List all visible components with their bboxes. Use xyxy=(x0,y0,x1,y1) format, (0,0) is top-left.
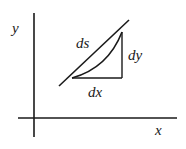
dy-label: dy xyxy=(128,47,143,63)
x-axis-label: x xyxy=(154,122,162,138)
y-axis-label: y xyxy=(10,20,19,36)
ds-label: ds xyxy=(76,35,90,51)
dx-label: dx xyxy=(88,84,103,100)
hypotenuse-line xyxy=(59,20,129,86)
arc-length-diagram: y x ds dy dx xyxy=(0,0,186,149)
